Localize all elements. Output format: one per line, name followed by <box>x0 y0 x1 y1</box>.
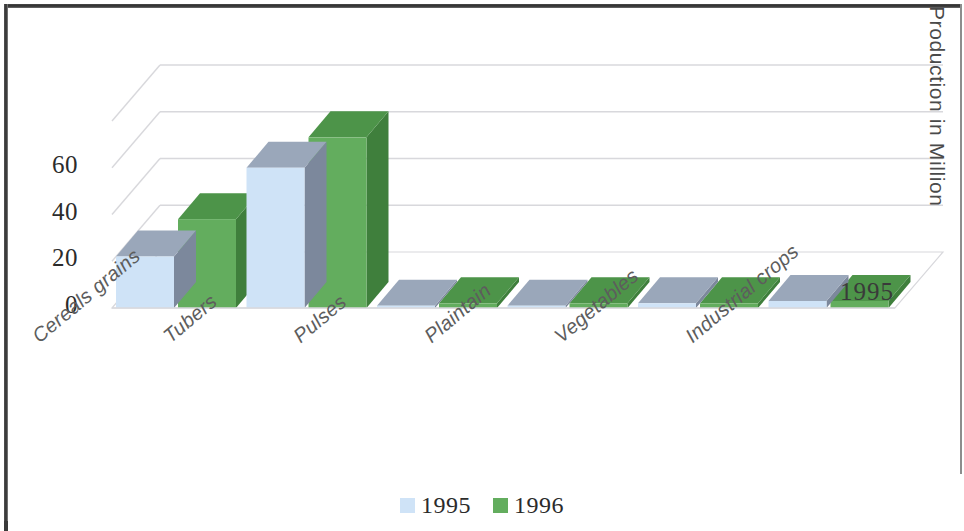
chart-svg: Cereals grains — 1996: 38Cereals grains … <box>0 0 964 531</box>
bar-vegetables-1995-front-face <box>638 303 696 308</box>
legend-swatch-1995 <box>400 498 415 513</box>
bar-tubers-1995-side-face <box>305 142 327 308</box>
legend-label-1995: 1995 <box>421 492 471 519</box>
z-axis-tick-label: 1995 <box>840 278 894 306</box>
bar-industrial-crops-1995-front-face <box>769 301 827 308</box>
bar-tubers-1995: Tubers — 1995: 60 <box>247 142 327 308</box>
chart-container: Cereals grains — 1996: 38Cereals grains … <box>0 0 964 531</box>
y-tick-label-60: 60 <box>20 151 78 179</box>
legend-item-1996[interactable]: 1996 <box>493 492 564 519</box>
legend-item-1995[interactable]: 1995 <box>400 492 471 519</box>
legend-swatch-1996 <box>493 498 508 513</box>
legend-label-1996: 1996 <box>514 492 564 519</box>
y-tick-label-40: 40 <box>20 198 78 226</box>
y-tick-label-20: 20 <box>20 244 78 272</box>
bar-tubers-1996-side-face <box>367 111 389 308</box>
gridline-depth-60 <box>112 112 160 168</box>
y-axis-title: Production in Million <box>920 6 954 306</box>
y-axis-title-text: Production in Million <box>925 6 949 207</box>
gridline-depth-40 <box>112 159 160 215</box>
chart-legend: 19951996 <box>0 492 964 519</box>
plot-area: Cereals grains — 1996: 38Cereals grains … <box>0 0 964 531</box>
bar-tubers-1995-front-face <box>247 168 305 308</box>
y-axis-tick-labels: 0204060 <box>0 0 78 531</box>
gridline-depth-80 <box>112 65 160 121</box>
